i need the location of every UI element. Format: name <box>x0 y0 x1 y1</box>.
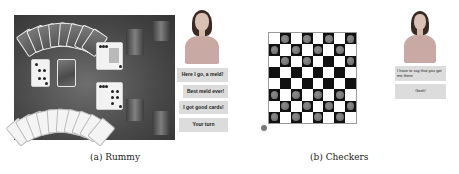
checker-piece[interactable] <box>336 46 344 54</box>
checker-piece[interactable] <box>303 102 311 110</box>
board-square[interactable] <box>323 101 334 112</box>
board-square[interactable] <box>280 56 291 67</box>
board-square[interactable] <box>291 89 302 100</box>
rummy-caption: (a) Rummy <box>90 152 140 162</box>
board-square[interactable] <box>269 101 280 112</box>
board-square[interactable] <box>269 67 280 78</box>
board-square[interactable] <box>313 112 324 123</box>
agent-message-gosh[interactable]: Gosh! <box>395 84 446 99</box>
board-square[interactable] <box>345 67 356 78</box>
board-square[interactable] <box>345 56 356 67</box>
board-square[interactable] <box>323 67 334 78</box>
board-square[interactable] <box>269 89 280 100</box>
checker-piece[interactable] <box>292 113 300 121</box>
board-square[interactable] <box>280 112 291 123</box>
checker-piece[interactable] <box>281 35 289 43</box>
board-square[interactable] <box>269 56 280 67</box>
checker-piece[interactable] <box>271 113 279 121</box>
board-square[interactable] <box>302 101 313 112</box>
board-square[interactable] <box>291 33 302 44</box>
board-square[interactable] <box>302 44 313 55</box>
chat-button-your-turn[interactable]: Your turn <box>179 118 228 132</box>
board-square[interactable] <box>291 56 302 67</box>
board-square[interactable] <box>302 33 313 44</box>
checker-piece[interactable] <box>336 113 344 121</box>
board-square[interactable] <box>345 89 356 100</box>
checker-piece[interactable] <box>336 91 344 99</box>
board-square[interactable] <box>302 78 313 89</box>
checker-piece[interactable] <box>314 46 322 54</box>
board-square[interactable] <box>323 56 334 67</box>
board-square[interactable] <box>313 67 324 78</box>
board-square[interactable] <box>334 44 345 55</box>
board-square[interactable] <box>334 56 345 67</box>
board-square[interactable] <box>345 44 356 55</box>
discard-pile-card[interactable] <box>31 59 50 87</box>
checker-piece[interactable] <box>303 35 311 43</box>
board-square[interactable] <box>291 67 302 78</box>
checkers-board[interactable] <box>268 32 357 124</box>
board-square[interactable] <box>323 89 334 100</box>
chat-button-best-meld[interactable]: Best meld ever! <box>183 85 228 98</box>
board-square[interactable] <box>334 78 345 89</box>
board-square[interactable] <box>313 56 324 67</box>
board-square[interactable] <box>291 112 302 123</box>
board-square[interactable] <box>313 101 324 112</box>
checker-piece[interactable] <box>347 57 355 65</box>
meld-queen-clubs[interactable] <box>96 42 123 70</box>
checker-piece[interactable] <box>281 57 289 65</box>
checker-piece[interactable] <box>347 102 355 110</box>
board-square[interactable] <box>280 89 291 100</box>
board-square[interactable] <box>291 101 302 112</box>
board-square[interactable] <box>323 78 334 89</box>
board-square[interactable] <box>291 78 302 89</box>
chat-button-good-cards[interactable]: I got good cards! <box>179 101 228 114</box>
board-square[interactable] <box>323 112 334 123</box>
checker-piece[interactable] <box>314 113 322 121</box>
board-square[interactable] <box>334 67 345 78</box>
board-square[interactable] <box>280 33 291 44</box>
board-square[interactable] <box>323 44 334 55</box>
board-square[interactable] <box>269 44 280 55</box>
checker-piece[interactable] <box>303 57 311 65</box>
checker-piece[interactable] <box>292 46 300 54</box>
board-square[interactable] <box>334 33 345 44</box>
board-square[interactable] <box>345 33 356 44</box>
board-square[interactable] <box>280 67 291 78</box>
checker-piece[interactable] <box>325 102 333 110</box>
board-square[interactable] <box>345 78 356 89</box>
board-square[interactable] <box>269 78 280 89</box>
chat-button-meld[interactable]: Here I go, a meld! <box>177 68 228 82</box>
board-square[interactable] <box>302 89 313 100</box>
board-square[interactable] <box>280 44 291 55</box>
board-square[interactable] <box>313 33 324 44</box>
board-square[interactable] <box>269 33 280 44</box>
board-square[interactable] <box>291 44 302 55</box>
board-square[interactable] <box>334 112 345 123</box>
meld-spades[interactable] <box>96 82 123 110</box>
checker-piece[interactable] <box>281 102 289 110</box>
board-square[interactable] <box>302 56 313 67</box>
draw-pile[interactable] <box>57 59 76 87</box>
checker-piece[interactable] <box>271 46 279 54</box>
board-square[interactable] <box>323 33 334 44</box>
checker-piece[interactable] <box>325 35 333 43</box>
checker-piece[interactable] <box>314 91 322 99</box>
checkers-caption: (b) Checkers <box>310 152 368 162</box>
board-square[interactable] <box>269 112 280 123</box>
board-square[interactable] <box>302 112 313 123</box>
checker-piece[interactable] <box>292 91 300 99</box>
board-square[interactable] <box>345 101 356 112</box>
board-square[interactable] <box>280 101 291 112</box>
board-square[interactable] <box>313 89 324 100</box>
board-square[interactable] <box>345 112 356 123</box>
board-square[interactable] <box>334 101 345 112</box>
agent-message-got-me[interactable]: I have to say that you got me there <box>395 66 446 81</box>
board-square[interactable] <box>280 78 291 89</box>
board-square[interactable] <box>313 78 324 89</box>
checker-piece[interactable] <box>347 35 355 43</box>
board-square[interactable] <box>313 44 324 55</box>
board-square[interactable] <box>334 89 345 100</box>
board-square[interactable] <box>302 67 313 78</box>
checker-piece[interactable] <box>271 91 279 99</box>
